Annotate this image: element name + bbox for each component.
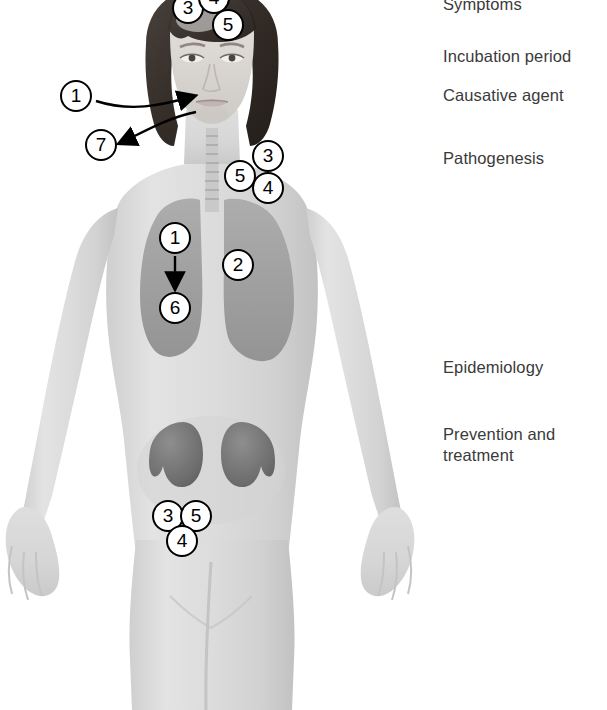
legend-label-symptoms: Symptoms (443, 0, 522, 15)
marker-3-neck-shoulder[interactable]: 3 (252, 140, 284, 172)
marker-1-face-callout[interactable]: 1 (60, 80, 92, 112)
legend-label-prevention-and-treatment: Prevention and treatment (443, 424, 555, 466)
legend-label-causative-agent: Causative agent (443, 85, 564, 106)
marker-5-forehead[interactable]: 5 (212, 9, 244, 41)
legend-label-epidemiology: Epidemiology (443, 357, 543, 378)
legend-label-pathogenesis: Pathogenesis (443, 148, 544, 169)
anatomy-trachea (205, 128, 219, 212)
marker-2-lung-right[interactable]: 2 (222, 249, 254, 281)
marker-4-kidney[interactable]: 4 (166, 525, 198, 557)
marker-6-lung-left[interactable]: 6 (159, 292, 191, 324)
anatomy-figure: 34517354126354 SymptomsIncubation period… (0, 0, 607, 710)
marker-4-neck-shoulder[interactable]: 4 (252, 172, 284, 204)
marker-7-face-callout[interactable]: 7 (85, 129, 117, 161)
marker-1-lung-left[interactable]: 1 (159, 222, 191, 254)
legend-label-incubation-period: Incubation period (443, 46, 571, 67)
